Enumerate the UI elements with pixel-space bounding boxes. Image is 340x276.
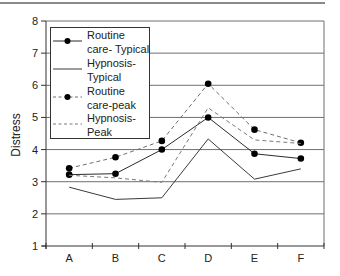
- legend-label: care-peak: [87, 99, 136, 111]
- data-point-marker: [251, 150, 258, 157]
- legend-label: Hypnosis-: [87, 57, 136, 69]
- data-point-marker: [159, 138, 166, 145]
- data-point-marker: [205, 80, 212, 87]
- y-tick-label: 6: [32, 79, 38, 91]
- legend-label: Typical: [87, 71, 121, 83]
- x-tick-label: D: [204, 252, 212, 264]
- series-hypnosis-typical: [69, 139, 301, 199]
- y-tick-label: 1: [32, 240, 38, 252]
- data-point-marker: [66, 171, 73, 178]
- legend-label: Peak: [87, 126, 113, 138]
- y-tick-label: 7: [32, 47, 38, 59]
- legend-marker-dot: [65, 94, 71, 100]
- legend-label: care- Typical: [87, 43, 149, 55]
- y-tick-label: 2: [32, 208, 38, 220]
- legend: Routinecare- TypicalHypnosis-TypicalRout…: [51, 28, 150, 139]
- legend-label: Routine: [87, 85, 125, 97]
- y-tick-label: 3: [32, 176, 38, 188]
- data-point-marker: [251, 126, 258, 133]
- line-chart-figure: 12345678 ABCDEF Distress Routinecare- Ty…: [0, 0, 340, 276]
- x-tick-label: B: [112, 252, 119, 264]
- data-point-marker: [66, 165, 73, 172]
- data-point-marker: [205, 114, 212, 121]
- legend-label: Routine: [87, 29, 125, 41]
- x-tick-label: A: [65, 252, 73, 264]
- series-line: [69, 139, 301, 199]
- y-tick-label: 5: [32, 111, 38, 123]
- legend-label: Hypnosis-: [87, 112, 136, 124]
- x-tick-label: C: [158, 252, 166, 264]
- x-tick-label: E: [251, 252, 258, 264]
- y-tick-label: 4: [32, 144, 38, 156]
- y-axis-label: Distress: [9, 113, 23, 156]
- x-tick-label: F: [297, 252, 304, 264]
- chart-canvas: 12345678 ABCDEF Distress Routinecare- Ty…: [0, 0, 340, 276]
- legend-marker-dot: [65, 38, 71, 44]
- data-point-marker: [298, 155, 305, 162]
- data-point-marker: [112, 154, 119, 161]
- y-axis-ticks: 12345678: [32, 15, 46, 252]
- data-point-marker: [159, 146, 166, 153]
- y-tick-label: 8: [32, 15, 38, 27]
- data-point-marker: [112, 170, 119, 177]
